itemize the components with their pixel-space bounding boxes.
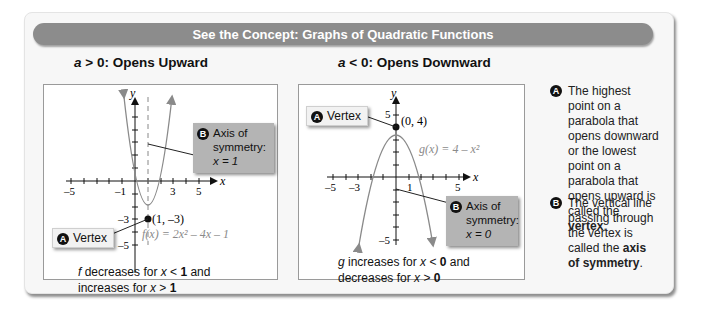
left-caption: f decreases for x < 1 and increases for …: [78, 264, 210, 296]
right-heading: a < 0: Opens Downward: [338, 55, 491, 70]
svg-text:5: 5: [385, 108, 391, 120]
banner-title: See the Concept: Graphs of Quadratic Fun…: [192, 27, 493, 42]
axis-definition-note: B The vertical line passing through the …: [550, 196, 660, 271]
vertex-callout: AVertex: [52, 228, 114, 248]
left-heading: a > 0: Opens Upward: [74, 55, 208, 70]
concept-banner: See the Concept: Graphs of Quadratic Fun…: [33, 23, 653, 45]
badge-b-icon: B: [197, 128, 209, 140]
badge-a-icon: A: [311, 111, 323, 123]
badge-b-icon: B: [550, 197, 562, 209]
function-equation: g(x) = 4 – x²: [419, 142, 480, 156]
function-equation: f(x) = 2x² – 4x – 1: [142, 227, 229, 241]
badge-a-icon: A: [57, 233, 69, 245]
badge-b-icon: B: [450, 201, 462, 213]
heading-variable: a: [338, 55, 346, 70]
x-axis-label: x: [472, 170, 479, 184]
upward-parabola-graph: y x –5 –1 3 5 –3 –5 (1, –3) f(x) = 2x² –…: [44, 85, 277, 279]
axis-of-symmetry-callout: BAxis of symmetry: x = 0: [446, 196, 518, 246]
y-axis-label: y: [390, 86, 397, 100]
heading-text: > 0: Opens Upward: [82, 55, 208, 70]
vertex-coordinates: (1, –3): [152, 212, 184, 226]
axis-of-symmetry-callout: BAxis of symmetry: x = 1: [193, 123, 274, 173]
svg-text:–1: –1: [114, 185, 126, 197]
x-axis-label: x: [219, 174, 226, 188]
vertex-callout: AVertex: [306, 106, 368, 126]
svg-text:1: 1: [407, 181, 413, 193]
left-graph-panel: y x –5 –1 3 5 –3 –5 (1, –3) f(x) = 2x² –…: [43, 84, 278, 280]
heading-text: < 0: Opens Downward: [346, 55, 491, 70]
right-caption: g increases for x < 0 and decreases for …: [338, 254, 470, 286]
svg-text:–3: –3: [117, 213, 130, 225]
svg-text:5: 5: [196, 185, 202, 197]
y-axis-label: y: [129, 86, 136, 100]
svg-text:3: 3: [170, 185, 176, 197]
heading-variable: a: [74, 55, 82, 70]
svg-text:–3: –3: [348, 181, 361, 193]
svg-text:–5: –5: [117, 239, 130, 251]
badge-a-icon: A: [550, 85, 562, 97]
svg-text:–5: –5: [324, 181, 337, 193]
vertex-coordinates: (0, 4): [401, 114, 427, 128]
svg-text:5: 5: [455, 181, 461, 193]
svg-text:–5: –5: [378, 234, 391, 246]
svg-text:–5: –5: [63, 185, 76, 197]
